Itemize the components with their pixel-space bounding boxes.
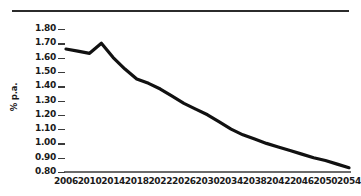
chart-figure: % p.a. 1.801.701.601.501.401.301.201.101…: [0, 0, 361, 196]
data-series-line: [66, 43, 349, 167]
plot-area: [0, 0, 361, 196]
